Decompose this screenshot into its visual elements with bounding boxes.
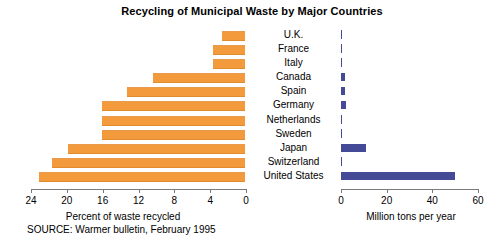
bar-row [341,127,504,141]
percent-axis-title: Percent of waste recycled [0,211,246,222]
axis-line [341,189,478,190]
axis-tick-label: 16 [90,195,116,206]
axis-tick-label: 24 [18,195,44,206]
million-tons-bar [341,157,342,166]
percent-bar [102,101,245,111]
million-tons-axis-title: Million tons per year [321,211,501,222]
axis-tick [341,189,342,193]
chart-title: Recycling of Municipal Waste by Major Co… [0,5,504,17]
percent-bar [127,87,245,97]
axis-tick-label: 0 [233,195,259,206]
bar-row [0,84,246,98]
country-label: Canada [246,70,341,84]
axis-tick-label: 60 [465,195,491,206]
bar-row [0,42,246,56]
bar-row [0,56,246,70]
axis-tick-label: 40 [419,195,445,206]
percent-bar [52,158,245,168]
axis-tick [139,189,140,193]
bar-row [341,169,504,183]
million-tons-bar [341,73,345,81]
country-label-column: U.K.FranceItalyCanadaSpainGermanyNetherl… [246,28,341,188]
bar-row [0,70,246,84]
axis-tick [103,189,104,193]
percent-bar [213,45,245,55]
bar-row [341,113,504,127]
bar-row [0,127,246,141]
percent-bar [39,172,245,182]
country-label: Germany [246,98,341,112]
country-label: Sweden [246,127,341,141]
bar-row [0,169,246,183]
country-label: Japan [246,141,341,155]
million-tons-plot [341,28,504,188]
bar-row [0,113,246,127]
percent-bar [153,73,245,83]
country-label: Spain [246,84,341,98]
bar-row [0,98,246,112]
million-tons-bar [341,144,366,152]
bar-row [341,70,504,84]
axis-tick [67,189,68,193]
country-label: Switzerland [246,155,341,169]
country-label: U.K. [246,28,341,42]
percent-bar [102,116,245,126]
chart-figure: Recycling of Municipal Waste by Major Co… [0,0,504,242]
percent-bar [222,31,245,41]
bar-row [341,28,504,42]
million-tons-bar [341,129,342,138]
axis-tick [31,189,32,193]
bar-row [341,141,504,155]
axis-tick-label: 0 [328,195,354,206]
million-tons-bar [341,44,342,53]
axis-tick-label: 12 [126,195,152,206]
axis-tick-label: 8 [161,195,187,206]
source-note: SOURCE: Warmer bulletin, February 1995 [27,224,216,235]
million-tons-bar [341,30,342,39]
bar-row [341,98,504,112]
million-tons-bar [341,58,342,67]
bar-row [341,155,504,169]
bar-row [0,155,246,169]
axis-tick [432,189,433,193]
million-tons-bar [341,101,346,109]
percent-bar [213,59,245,69]
country-label: France [246,42,341,56]
country-label: Italy [246,56,341,70]
axis-tick [210,189,211,193]
percent-bar [68,144,245,154]
axis-tick [387,189,388,193]
million-tons-bar [341,172,455,180]
bar-row [0,141,246,155]
bar-row [341,42,504,56]
axis-tick-label: 4 [197,195,223,206]
axis-tick [478,189,479,193]
million-tons-bar [341,115,342,124]
percent-bar [102,130,245,140]
million-tons-axis: Million tons per year 0204060 [341,189,504,229]
axis-tick-label: 20 [374,195,400,206]
percent-axis: Percent of waste recycled 24201612840 [0,189,246,229]
axis-tick-label: 20 [54,195,80,206]
million-tons-bar [341,87,345,95]
bar-row [341,84,504,98]
axis-tick [174,189,175,193]
bar-row [0,28,246,42]
country-label: United States [246,169,341,183]
axis-tick [246,189,247,193]
country-label: Netherlands [246,113,341,127]
percent-recycled-plot [0,28,246,188]
bar-row [341,56,504,70]
